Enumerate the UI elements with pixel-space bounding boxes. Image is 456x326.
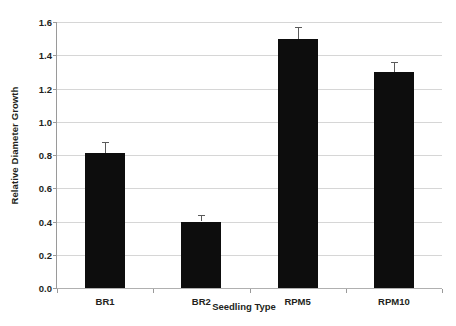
- y-axis-tick-mark: [53, 188, 57, 189]
- y-axis-tick-label: 1.0: [4, 116, 52, 127]
- y-axis-tick-label: 0.0: [4, 283, 52, 294]
- bar-rpm5: [278, 39, 318, 288]
- x-axis-tick-label-rpm5: RPM5: [284, 296, 310, 307]
- x-axis-tick-mark: [57, 289, 58, 293]
- bar-br2: [181, 222, 221, 289]
- y-axis-tick-labels: 0.00.20.40.60.81.01.21.41.6: [0, 0, 52, 326]
- y-axis-tick-mark: [53, 55, 57, 56]
- y-axis-tick-label: 0.8: [4, 150, 52, 161]
- y-axis-tick-mark: [53, 222, 57, 223]
- x-axis-tick-mark: [250, 289, 251, 293]
- gridline: [57, 55, 442, 56]
- y-axis-tick-mark: [53, 155, 57, 156]
- x-axis-tick-mark: [442, 289, 443, 293]
- gridline: [57, 22, 442, 23]
- error-bar-rpm5: [298, 27, 299, 39]
- y-axis-tick-label: 1.6: [4, 17, 52, 28]
- bar-rpm10: [374, 72, 414, 288]
- bar-br1: [85, 153, 125, 288]
- error-bar-br1: [105, 142, 106, 154]
- plot-area: [57, 22, 442, 288]
- y-axis-tick-label: 0.4: [4, 216, 52, 227]
- x-axis-tick-mark: [346, 289, 347, 293]
- y-axis-tick-label: 0.2: [4, 249, 52, 260]
- y-axis-tick-mark: [53, 22, 57, 23]
- x-axis-tick-label-rpm10: RPM10: [378, 296, 410, 307]
- bar-chart: Relative Diameter Growth 0.00.20.40.60.8…: [0, 0, 456, 326]
- y-axis-tick-label: 1.4: [4, 50, 52, 61]
- y-axis-tick-label: 1.2: [4, 83, 52, 94]
- y-axis-tick-mark: [53, 122, 57, 123]
- error-bar-cap-br1: [102, 142, 109, 143]
- y-axis-tick-mark: [53, 288, 57, 289]
- y-axis-tick-label: 0.6: [4, 183, 52, 194]
- x-axis-tick-label-br2: BR2: [192, 296, 211, 307]
- x-axis-title: Seedling Type: [212, 301, 276, 312]
- y-axis-tick-mark: [53, 89, 57, 90]
- error-bar-rpm10: [394, 62, 395, 72]
- error-bar-cap-rpm5: [295, 27, 302, 28]
- error-bar-cap-rpm10: [391, 62, 398, 63]
- y-axis-tick-mark: [53, 255, 57, 256]
- error-bar-cap-br2: [198, 215, 205, 216]
- x-axis-tick-label-br1: BR1: [96, 296, 115, 307]
- x-axis-tick-mark: [153, 289, 154, 293]
